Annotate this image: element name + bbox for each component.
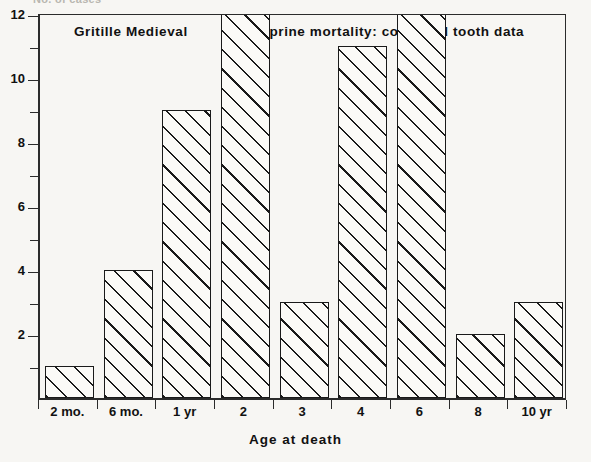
plot-area: Gritille Medieval Caprine mortality: cor… [38,14,566,400]
x-axis-tick [155,400,156,409]
x-axis-tick-label: 6 mo. [109,404,143,419]
bar [45,366,94,398]
x-axis-tick-label: 1 yr [173,404,196,419]
bar [514,302,563,398]
y-axis-tick-label: 12 [0,7,25,22]
bar-series [40,15,565,398]
y-axis-tick-label: 8 [0,135,25,150]
x-axis-tick-label: 2 mo. [50,404,84,419]
x-axis-tick [214,400,215,409]
bar [397,14,446,398]
y-axis-tick-minor [30,176,38,177]
y-axis-tick-major [28,144,38,145]
y-axis-tick-label: 4 [0,263,25,278]
y-axis-tick-minor [30,112,38,113]
y-axis-tick-minor [30,368,38,369]
y-axis-tick-major [28,208,38,209]
y-axis-tick-major [28,272,38,273]
x-axis-tick-label: 8 [474,404,481,419]
bar [104,270,153,398]
bar [338,46,387,398]
y-axis-tick-major [28,80,38,81]
x-axis-tick [507,400,508,409]
x-axis-tick [97,400,98,409]
bar [456,334,505,398]
y-axis-tick-label: 2 [0,327,25,342]
x-axis-tick [38,400,39,409]
y-axis-tick-minor [30,48,38,49]
x-axis-tick [331,400,332,409]
x-axis-tick [449,400,450,409]
y-axis-tick-minor [30,304,38,305]
x-axis-title: Age at death [0,432,591,447]
y-axis-tick-major [28,16,38,17]
bar [221,14,270,398]
x-axis-tick-label: 2 [240,404,247,419]
x-axis-tick-label: 10 yr [521,404,551,419]
y-axis-tick-label: 6 [0,199,25,214]
x-axis-tick [273,400,274,409]
x-axis-tick [566,400,567,409]
y-axis-caption: No. of cases [33,0,101,5]
y-axis-tick-label: 10 [0,71,25,86]
x-axis-tick-label: 3 [298,404,305,419]
figure-bar-chart: No. of cases Gritille Medieval Caprine m… [0,0,591,462]
y-axis-tick-minor [30,240,38,241]
x-axis-tick-label: 6 [416,404,423,419]
bar [280,302,329,398]
y-axis-tick-major [28,336,38,337]
x-axis-tick-label: 4 [357,404,364,419]
x-axis-tick [390,400,391,409]
bar [162,110,211,398]
